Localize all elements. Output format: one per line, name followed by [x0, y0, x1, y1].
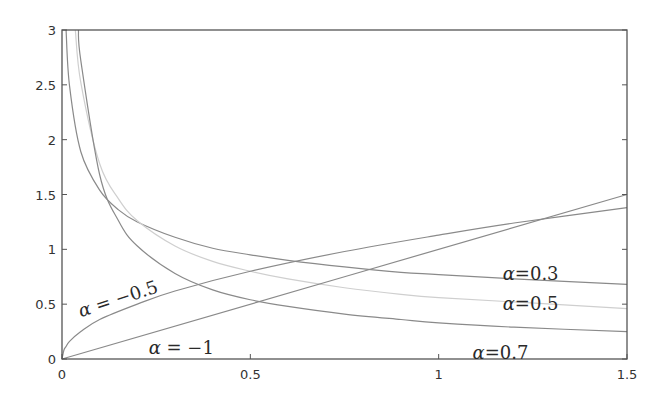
alpha-symbol: α — [503, 263, 515, 284]
alpha-value: =0.7 — [485, 342, 529, 363]
alpha-value: =0.3 — [515, 263, 559, 284]
x-tick-label: 0 — [58, 367, 66, 382]
curve-labels-group: α = −0.5α = −1α=0.3α=0.5α=0.7 — [76, 263, 559, 363]
alpha-value: = −1 — [161, 337, 214, 358]
curve-line-2 — [78, 30, 627, 332]
y-tick-label: 3 — [48, 23, 56, 38]
y-tick-label: 0.5 — [35, 297, 56, 312]
curve-label: α=0.7 — [473, 342, 529, 363]
curve-label: α=0.5 — [503, 293, 559, 314]
y-tick-label: 0 — [48, 352, 56, 367]
alpha-symbol: α — [473, 342, 485, 363]
curve-label: α=0.3 — [503, 263, 559, 284]
y-tick-label: 1.5 — [35, 188, 56, 203]
chart: 00.511.500.511.522.53 α = −0.5α = −1α=0.… — [0, 0, 665, 407]
y-tick-label: 1 — [48, 242, 56, 257]
alpha-value: =0.5 — [515, 293, 559, 314]
alpha-symbol: α — [149, 337, 161, 358]
curve-label: α = −0.5 — [76, 276, 161, 321]
curve-line-0 — [66, 30, 627, 284]
x-tick-label: 1 — [435, 367, 443, 382]
alpha-value: = −0.5 — [87, 276, 160, 318]
x-tick-label: 1.5 — [617, 367, 638, 382]
y-tick-label: 2.5 — [35, 78, 56, 93]
curve-label: α = −1 — [149, 337, 214, 358]
y-tick-label: 2 — [48, 133, 56, 148]
alpha-symbol: α — [503, 293, 515, 314]
x-tick-label: 0.5 — [240, 367, 261, 382]
